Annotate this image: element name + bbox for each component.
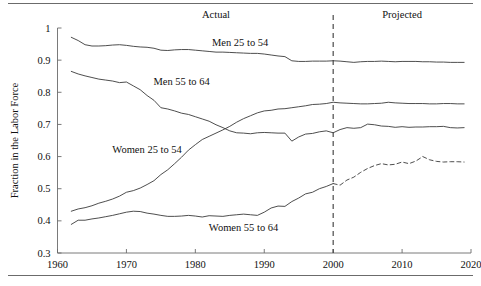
x-tick-label: 1990 — [254, 259, 275, 270]
labor-force-line-chart: 0.30.40.50.60.70.80.91 19601970198019902… — [0, 0, 481, 286]
y-tick-label: 0.8 — [37, 87, 50, 98]
x-tick-label: 1970 — [116, 259, 137, 270]
x-tick-label: 2000 — [323, 259, 344, 270]
annotation-group: ActualProjectedMen 25 to 54Men 55 to 64W… — [112, 9, 422, 233]
series-line-women-55-to-64-projected — [333, 157, 464, 186]
x-tick-label: 1960 — [47, 259, 68, 270]
men-25-54-label: Men 25 to 54 — [212, 37, 269, 48]
x-tick-label: 2020 — [461, 259, 481, 270]
y-axis-title: Fraction in the Labor Force — [9, 82, 20, 198]
series-group — [71, 37, 464, 224]
x-tick-label: 2010 — [392, 259, 413, 270]
women-25-54-label: Women 25 to 54 — [112, 144, 182, 155]
y-tick-label: 0.5 — [37, 183, 50, 194]
men-55-64-label: Men 55 to 64 — [153, 76, 210, 87]
series-line-women-55-to-64-actual — [71, 184, 333, 225]
y-tick-label: 0.3 — [37, 248, 50, 259]
figure-container: 0.30.40.50.60.70.80.91 19601970198019902… — [0, 0, 481, 286]
x-tick-group: 1960197019801990200020102020 — [47, 249, 481, 270]
y-tick-label: 1 — [45, 23, 50, 34]
x-tick-label: 1980 — [185, 259, 206, 270]
women-55-64-label: Women 55 to 64 — [209, 222, 279, 233]
series-line-women-25-to-54 — [71, 102, 464, 211]
y-tick-label: 0.7 — [37, 119, 50, 130]
series-line-men-55-to-64 — [71, 71, 464, 141]
y-tick-label: 0.6 — [37, 151, 50, 162]
actual-label: Actual — [202, 9, 230, 20]
y-tick-label: 0.4 — [37, 215, 51, 226]
y-tick-label: 0.9 — [37, 55, 50, 66]
projected-label: Projected — [382, 9, 422, 20]
